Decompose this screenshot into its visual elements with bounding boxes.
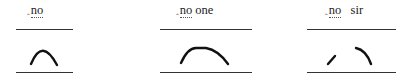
panel-no-one: ‸no one xyxy=(140,0,280,75)
pitch-contour-rise-fall xyxy=(0,0,140,75)
panel-no-sir: ‸no sir xyxy=(280,0,407,75)
pitch-contour-interrupted-rise-fall xyxy=(280,0,407,75)
pitch-contour-extended-rise-fall xyxy=(140,0,280,75)
lower-line xyxy=(16,72,73,73)
panel-no: ‸no xyxy=(0,0,140,75)
lower-line xyxy=(160,72,252,73)
lower-line xyxy=(307,72,396,73)
